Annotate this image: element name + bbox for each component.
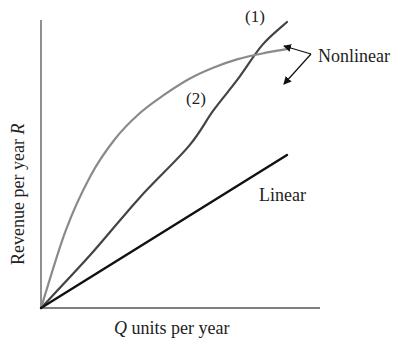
y-axis-text: Revenue per year bbox=[8, 135, 28, 265]
curve1-label: (1) bbox=[245, 7, 265, 26]
y-axis-variable: R bbox=[8, 124, 28, 136]
arrow-to-curve1 bbox=[284, 46, 311, 54]
nonlinear-label: Nonlinear bbox=[318, 46, 390, 66]
series-1-line bbox=[41, 22, 287, 308]
arrow-to-curve2 bbox=[284, 54, 311, 84]
x-axis-variable: Q bbox=[114, 318, 127, 338]
series-linear-line bbox=[41, 155, 287, 308]
curve2-label: (2) bbox=[186, 89, 206, 108]
x-axis-label: Q units per year bbox=[114, 318, 229, 338]
series-layer bbox=[41, 22, 287, 308]
revenue-chart: (1) (2) Nonlinear Linear Q units per yea… bbox=[0, 0, 419, 345]
y-axis-label: Revenue per year R bbox=[8, 124, 28, 265]
x-axis-text: units per year bbox=[127, 318, 229, 338]
linear-label: Linear bbox=[259, 185, 306, 205]
